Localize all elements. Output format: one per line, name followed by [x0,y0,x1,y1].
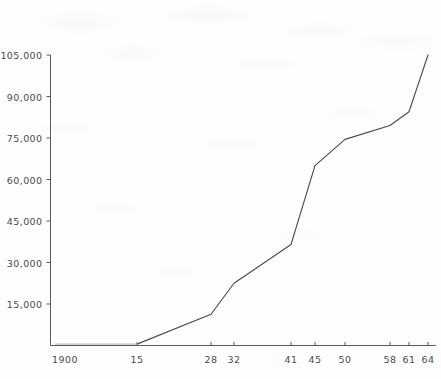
y-tick-label: 30,000 [7,257,43,268]
y-tick-marks [47,55,51,304]
y-tick-label: 75,000 [7,133,43,144]
x-tick-label: 41 [285,354,298,365]
line-chart-plot [0,0,441,379]
y-tick-label: 15,000 [7,299,43,310]
x-tick-marks [137,342,428,346]
x-tick-label: 28 [205,354,218,365]
y-tick-label: 45,000 [7,216,43,227]
x-tick-label: 64 [422,354,435,365]
x-tick-label: 58 [384,354,397,365]
x-tick-label: 45 [309,354,322,365]
data-line-series-1 [137,55,428,344]
x-tick-label: 61 [403,354,416,365]
x-tick-label: 1900 [52,354,78,365]
x-tick-label: 32 [228,354,241,365]
y-tick-label: 105,000 [0,50,42,61]
y-tick-label: 60,000 [7,174,43,185]
y-tick-label: 90,000 [7,91,43,102]
chart-figure: 15,00030,00045,00060,00075,00090,000105,… [0,0,441,379]
x-tick-label: 50 [339,354,352,365]
x-tick-label: 15 [131,354,144,365]
